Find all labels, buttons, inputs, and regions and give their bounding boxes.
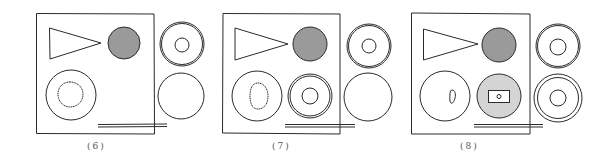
panel-8 <box>412 13 583 134</box>
dark-filled-circle <box>482 28 516 62</box>
ring-outer <box>160 22 204 66</box>
diagram-figure: (6) (7) (8) <box>0 0 607 163</box>
ring-outer-2 <box>290 76 330 116</box>
triangle-shape <box>50 28 102 59</box>
plain-circle <box>158 73 204 119</box>
double-line-bottom <box>98 127 167 128</box>
ring-outer <box>534 74 582 122</box>
ring-outer <box>288 74 332 118</box>
small-blob <box>450 90 456 103</box>
panel-label-6: (6) <box>87 141 106 151</box>
wavy-inner-blob <box>58 82 83 107</box>
frame-box <box>37 14 155 135</box>
ring-outer-2 <box>538 26 579 67</box>
dark-filled-circle <box>293 27 327 61</box>
ring-inner <box>550 39 566 55</box>
ring-outer <box>347 24 391 68</box>
rectangle-marker <box>489 91 510 103</box>
ring-outer-2 <box>349 26 390 67</box>
ring-outer-2 <box>162 24 203 65</box>
ring-outer <box>536 24 580 68</box>
double-line-top <box>98 124 167 125</box>
large-circle <box>420 71 470 121</box>
panel-label-7: (7) <box>272 141 291 151</box>
panel-7 <box>223 14 393 135</box>
plain-circle <box>344 73 392 121</box>
panel-label-8: (8) <box>460 141 479 151</box>
ring-inner <box>550 90 566 106</box>
large-circle <box>46 70 96 120</box>
ring-inner <box>362 39 376 53</box>
panel-6 <box>37 14 205 135</box>
large-circle <box>232 71 282 121</box>
ring-inner <box>175 38 189 52</box>
wavy-inner-blob <box>250 83 268 109</box>
ring-outer-2 <box>538 78 579 119</box>
frame-box <box>223 14 341 135</box>
triangle-shape <box>424 29 479 60</box>
triangle-shape <box>235 28 288 60</box>
dark-filled-circle <box>108 27 140 59</box>
ring-inner <box>302 88 318 104</box>
